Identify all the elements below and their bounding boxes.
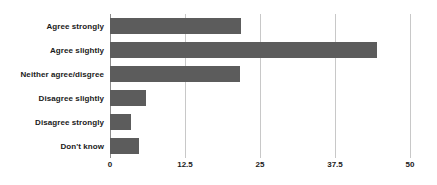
bar-slot-1 [110,38,377,62]
bar-disagree-strongly [110,114,131,130]
bar-neither-agree-disgree [110,66,240,82]
y-axis-label-1: Agree slightly [50,38,104,62]
y-axis-label-2: Neither agree/disgree [21,62,105,86]
x-axis-tick-4: 50 [406,160,415,169]
bar-series [110,14,411,158]
x-axis-tick-0: 0 [108,160,112,169]
y-axis-category-labels: Agree strongly Agree slightly Neither ag… [0,14,104,158]
y-axis-label-4: Disagree strongly [35,110,104,134]
x-axis-tick-labels: 0 12.5 25 37.5 50 [0,160,437,176]
bar-dont-know [110,138,139,154]
bar-disagree-slightly [110,90,146,106]
plot-area [110,14,411,158]
y-axis-label-0: Agree strongly [46,14,104,38]
bar-slot-5 [110,134,139,158]
y-axis-label-3: Disagree slightly [39,86,104,110]
bar-agree-slightly [110,42,377,58]
x-axis-tick-1: 12.5 [177,160,193,169]
bar-slot-0 [110,14,241,38]
x-axis-tick-2: 25 [256,160,265,169]
bar-agree-strongly [110,18,241,34]
bar-slot-2 [110,62,240,86]
x-axis-tick-3: 37.5 [327,160,343,169]
y-axis-label-5: Don't know [60,134,104,158]
bar-slot-3 [110,86,146,110]
bar-slot-4 [110,110,131,134]
bar-chart: Agree strongly Agree slightly Neither ag… [0,0,437,185]
